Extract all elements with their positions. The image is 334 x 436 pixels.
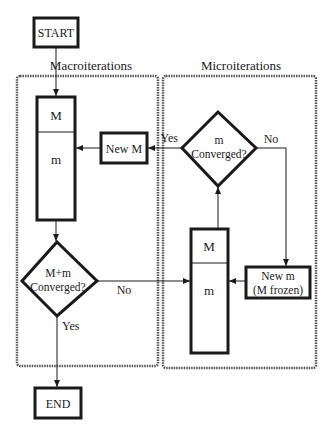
macro-yes-label: Yes [62, 319, 80, 333]
micro-decision-line2: Converged? [191, 148, 246, 161]
new-m-node: New m (M frozen) [246, 267, 310, 298]
edge-micro-no-to-new-m [256, 148, 286, 266]
microiterations-region: Microiterations [163, 58, 316, 368]
flowchart-canvas: Macroiterations Microiterations START M … [0, 0, 334, 436]
micro-state-box: M m [191, 229, 228, 353]
macro-state-m: m [51, 152, 61, 167]
micro-no-label: No [264, 132, 279, 146]
microiterations-title: Microiterations [201, 58, 281, 73]
macro-decision-line2: Converged? [30, 281, 85, 294]
micro-state-m: m [204, 283, 214, 298]
end-label: END [46, 397, 71, 411]
macro-state-M: M [50, 108, 62, 123]
macro-no-label: No [117, 283, 132, 297]
start-node: START [34, 18, 78, 47]
macroiterations-title: Macroiterations [50, 58, 132, 73]
new-m-line2: (M frozen) [253, 284, 303, 297]
micro-yes-label: Yes [161, 131, 179, 145]
micro-decision-line1: m [215, 134, 224, 146]
start-label: START [38, 26, 75, 40]
new-M-node: New M [101, 133, 147, 163]
macro-state-box: M m [37, 97, 75, 220]
new-m-line1: New m [261, 270, 295, 282]
macro-decision-line1: M+m [45, 267, 71, 279]
macro-decision-diamond: M+m Converged? [22, 242, 97, 316]
micro-decision-diamond: m Converged? [182, 112, 256, 186]
new-M-label: New M [106, 142, 143, 156]
end-node: END [35, 388, 81, 418]
micro-state-M: M [203, 239, 215, 254]
